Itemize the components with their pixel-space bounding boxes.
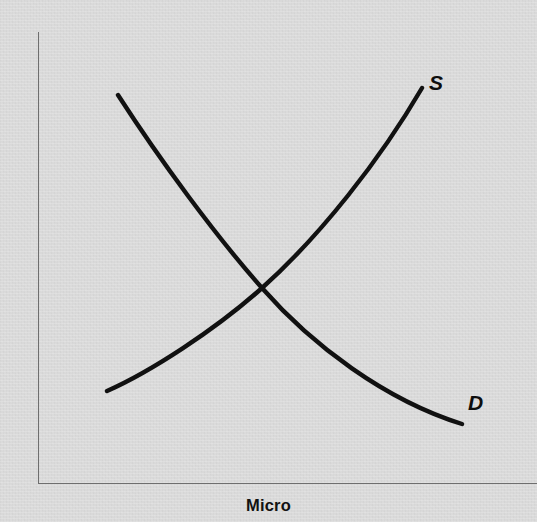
supply-curve (107, 88, 422, 391)
supply-curve-label: S (429, 72, 443, 93)
x-axis-caption: Micro (0, 496, 537, 515)
demand-curve-label: D (468, 392, 483, 413)
supply-demand-figure: S D Micro (0, 0, 537, 522)
plot-area (0, 0, 537, 522)
